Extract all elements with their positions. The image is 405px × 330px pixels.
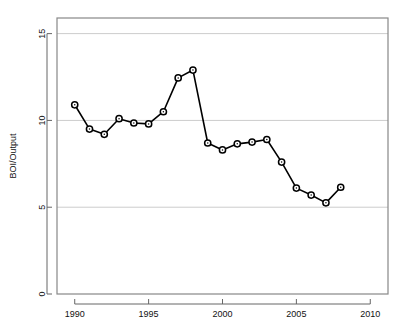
data-point-center-1994 — [133, 122, 135, 124]
data-point-center-1993 — [118, 118, 120, 120]
plot-background — [0, 0, 405, 330]
data-point-center-2000 — [222, 149, 224, 151]
data-point-center-1999 — [207, 142, 209, 144]
x-tick-label-1990: 1990 — [65, 309, 85, 319]
x-tick-label-2010: 2010 — [360, 309, 380, 319]
data-point-center-1990 — [74, 104, 76, 106]
data-point-center-1991 — [89, 128, 91, 130]
y-tick-label-0: 0 — [37, 291, 47, 296]
y-axis-label-text: BOI/Output — [8, 133, 18, 179]
y-tick-label-15: 15 — [37, 29, 47, 39]
data-point-center-2005 — [296, 187, 298, 189]
y-axis-label: BOI/Output — [8, 133, 18, 179]
data-point-center-2008 — [340, 187, 342, 189]
data-point-center-1996 — [163, 111, 165, 113]
data-point-center-2002 — [251, 141, 253, 143]
data-point-center-2001 — [237, 143, 239, 145]
line-chart: 19901995200020052010 051015 BOI/Output — [0, 0, 405, 330]
data-point-center-2004 — [281, 161, 283, 163]
y-tick-label-10: 10 — [37, 115, 47, 125]
data-point-center-1997 — [177, 77, 179, 79]
y-tick-label-5: 5 — [37, 205, 47, 210]
data-point-center-1995 — [148, 123, 150, 125]
x-tick-label-2005: 2005 — [286, 309, 306, 319]
data-point-center-2007 — [325, 202, 327, 204]
x-tick-label-1995: 1995 — [139, 309, 159, 319]
data-point-center-1992 — [104, 134, 106, 136]
data-point-center-2006 — [310, 194, 312, 196]
data-point-center-2003 — [266, 139, 268, 141]
x-tick-label-2000: 2000 — [212, 309, 232, 319]
data-point-center-1998 — [192, 69, 194, 71]
chart-container: 19901995200020052010 051015 BOI/Output — [0, 0, 405, 330]
